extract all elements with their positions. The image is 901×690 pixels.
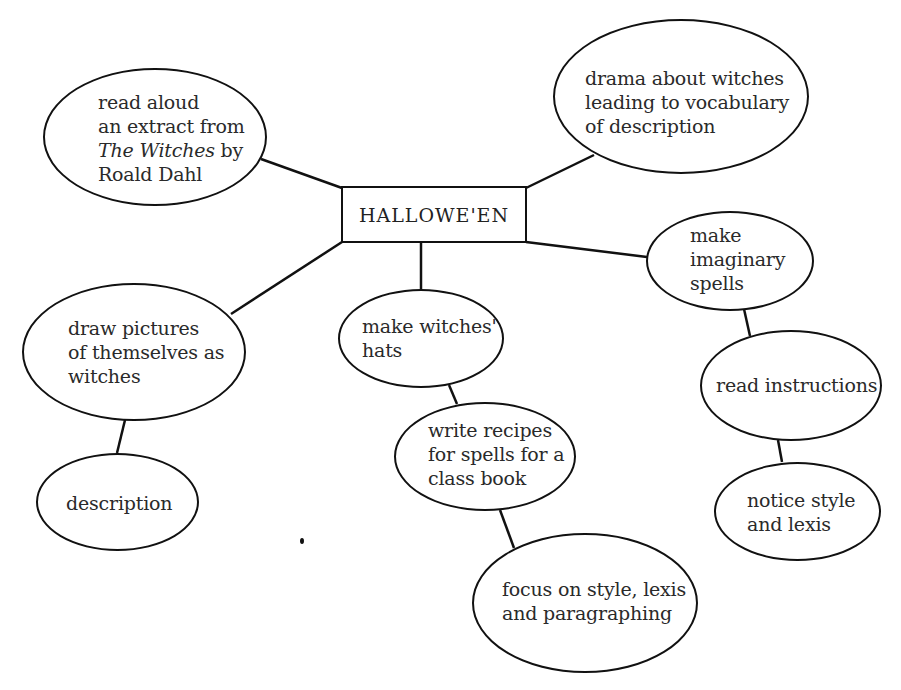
node-label: draw pictures of themselves as witches <box>68 316 224 388</box>
edge-draw-pictures-description <box>117 420 125 453</box>
edge-hallowen-draw-pictures <box>231 242 342 314</box>
node-witches-hats: make witches' hats <box>338 289 504 388</box>
node-label: focus on style, lexis and paragraphing <box>502 577 686 625</box>
node-read-instructions: read instructions <box>700 330 882 441</box>
central-topic-box: HALLOWE'EN <box>341 186 527 243</box>
edge-witches-hats-write-recipes <box>449 385 457 404</box>
node-notice-style: notice style and lexis <box>714 462 881 561</box>
node-label: read aloud an extract from The Witches b… <box>98 90 245 186</box>
node-label: notice style and lexis <box>747 488 855 536</box>
node-drama: drama about witches leading to vocabular… <box>553 19 809 174</box>
node-label: read instructions <box>716 373 877 397</box>
node-read-aloud: read aloud an extract from The Witches b… <box>43 68 267 206</box>
edge-write-recipes-focus-style <box>500 510 514 548</box>
node-description: description <box>36 453 199 551</box>
edge-read-instructions-notice-style <box>778 440 782 462</box>
book-title: The Witches <box>98 139 215 161</box>
edge-imaginary-spells-read-instructions <box>744 309 750 336</box>
node-label: description <box>66 491 172 515</box>
central-topic-label: HALLOWE'EN <box>359 204 509 226</box>
edge-hallowen-drama <box>526 155 594 188</box>
node-label: drama about witches leading to vocabular… <box>585 66 789 138</box>
node-label: write recipes for spells for a class boo… <box>428 418 564 490</box>
node-write-recipes: write recipes for spells for a class boo… <box>394 402 576 511</box>
edge-hallowen-imaginary-spells <box>526 242 647 257</box>
node-label: make imaginary spells <box>690 223 785 295</box>
node-imaginary-spells: make imaginary spells <box>646 211 814 311</box>
ink-speck <box>300 538 304 544</box>
node-label: make witches' hats <box>362 314 497 362</box>
node-draw-pictures: draw pictures of themselves as witches <box>22 283 246 421</box>
edge-hallowen-read-aloud <box>261 159 342 188</box>
node-focus-style: focus on style, lexis and paragraphing <box>472 533 698 673</box>
